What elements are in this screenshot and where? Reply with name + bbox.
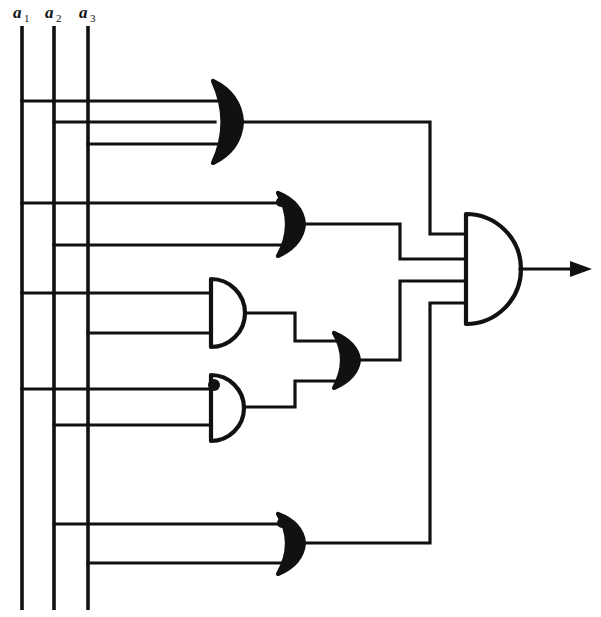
or-gate-icon-3 xyxy=(334,333,359,388)
arrow-head-icon xyxy=(570,261,592,277)
input-label-a1-subscript: 1 xyxy=(24,12,30,24)
and-gate-icon-output xyxy=(466,214,521,324)
junction-dot-and2 xyxy=(208,379,220,391)
wire-or3-to-and-final xyxy=(358,281,465,360)
input-label-a3-subscript: 3 xyxy=(90,12,96,24)
wire-or1-to-and-final xyxy=(241,122,465,234)
input-label-a2-base: a xyxy=(45,3,54,22)
input-label-a3-base: a xyxy=(79,3,88,22)
circuit-canvas: a 1 a 2 a 3 xyxy=(0,0,601,617)
or-gate-4-group xyxy=(54,303,465,574)
input-label-a2-subscript: 2 xyxy=(56,12,62,24)
wire-and1-to-or3 xyxy=(245,313,344,341)
or-gate-icon-1 xyxy=(213,81,242,163)
junction-dot-or2 xyxy=(276,197,286,207)
or-gate-3-group xyxy=(334,281,465,388)
and-gate-icon-1 xyxy=(211,279,245,347)
input-label-group: a 1 a 2 a 3 xyxy=(13,3,96,24)
junction-dot-or4 xyxy=(277,518,287,528)
wire-or2-to-and-final xyxy=(303,224,465,259)
input-label-a1-base: a xyxy=(13,3,22,22)
wire-or4-to-and-final xyxy=(303,303,465,543)
and-gate-2-group xyxy=(22,375,344,441)
logic-circuit-diagram: a 1 a 2 a 3 xyxy=(0,0,601,617)
and-gate-output-group xyxy=(466,214,592,324)
and-gate-1-group xyxy=(22,279,344,347)
wire-and2-to-or3 xyxy=(244,381,344,407)
